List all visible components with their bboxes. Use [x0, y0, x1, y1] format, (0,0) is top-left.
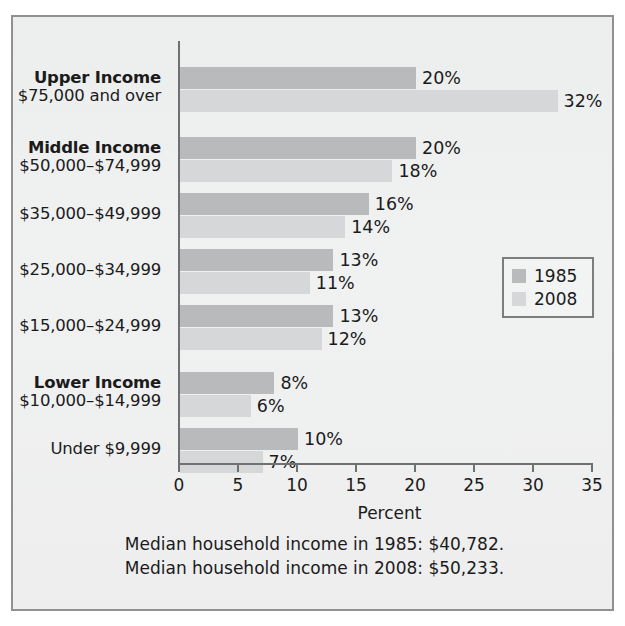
- x-tick-label-20: 20: [404, 475, 426, 495]
- bar-1985-1: [180, 137, 416, 159]
- bar-2008-5: [180, 395, 251, 417]
- bar-value-1985-6: 10%: [304, 428, 343, 450]
- bar-value-1985-4: 13%: [339, 305, 378, 327]
- category-range-1: $50,000–$74,999: [19, 157, 161, 175]
- x-tick-label-15: 15: [345, 475, 367, 495]
- category-group-1: Middle Income: [19, 139, 161, 157]
- bar-2008-3: [180, 272, 310, 294]
- x-tick-25: [473, 463, 475, 472]
- bar-value-2008-2: 14%: [351, 216, 390, 238]
- footnote-block: Median household income in 1985: $40,782…: [13, 532, 616, 580]
- x-tick-20: [414, 463, 416, 472]
- category-range-2: $35,000–$49,999: [19, 205, 161, 223]
- x-axis-title-text: Percent: [208, 503, 422, 523]
- x-tick-15: [355, 463, 357, 472]
- x-tick-5: [237, 463, 239, 472]
- bar-value-1985-0: 20%: [422, 67, 461, 89]
- x-axis-title: Percent: [13, 503, 616, 523]
- footnote-2008: Median household income in 2008: $50,233…: [13, 556, 616, 580]
- legend-label-1985: 1985: [534, 266, 577, 286]
- x-tick-10: [296, 463, 298, 472]
- bar-1985-3: [180, 249, 333, 271]
- x-tick-0: [178, 463, 180, 472]
- bar-2008-2: [180, 216, 345, 238]
- category-group-5: Lower Income: [19, 374, 161, 392]
- x-tick-label-5: 5: [233, 475, 244, 495]
- category-range-0: $75,000 and over: [18, 87, 161, 105]
- legend-swatch-1985-icon: [512, 269, 526, 283]
- bar-value-2008-0: 32%: [564, 90, 603, 112]
- x-tick-label-30: 30: [522, 475, 544, 495]
- bar-value-1985-2: 16%: [375, 193, 414, 215]
- bar-2008-1: [180, 160, 392, 182]
- category-range-4: $15,000–$24,999: [19, 317, 161, 335]
- category-label-2: $35,000–$49,999: [19, 205, 161, 223]
- y-axis-line: [178, 41, 180, 463]
- legend: 1985 2008: [502, 257, 594, 318]
- bar-1985-4: [180, 305, 333, 327]
- category-group-0: Upper Income: [18, 69, 161, 87]
- category-label-3: $25,000–$34,999: [19, 261, 161, 279]
- category-label-5: Lower Income$10,000–$14,999: [19, 374, 161, 411]
- category-label-6: Under $9,999: [50, 440, 161, 458]
- footnote-1985: Median household income in 1985: $40,782…: [13, 532, 616, 556]
- legend-label-2008: 2008: [534, 289, 577, 309]
- bar-value-2008-6: 7%: [269, 451, 297, 473]
- legend-item-1985: 1985: [512, 264, 585, 287]
- bar-1985-2: [180, 193, 369, 215]
- x-tick-30: [532, 463, 534, 472]
- x-tick-label-25: 25: [463, 475, 485, 495]
- bar-2008-6: [180, 451, 263, 473]
- category-label-4: $15,000–$24,999: [19, 317, 161, 335]
- legend-item-2008: 2008: [512, 287, 585, 310]
- category-range-3: $25,000–$34,999: [19, 261, 161, 279]
- x-tick-35: [591, 463, 593, 472]
- x-tick-label-35: 35: [581, 475, 603, 495]
- chart-frame: Upper Income$75,000 and overMiddle Incom…: [11, 15, 614, 611]
- category-label-1: Middle Income$50,000–$74,999: [19, 139, 161, 176]
- bar-value-1985-3: 13%: [339, 249, 378, 271]
- bar-value-1985-5: 8%: [280, 372, 308, 394]
- bar-value-2008-1: 18%: [398, 160, 437, 182]
- bar-1985-6: [180, 428, 298, 450]
- bar-1985-0: [180, 67, 416, 89]
- bar-value-2008-4: 12%: [328, 328, 367, 350]
- bar-1985-5: [180, 372, 274, 394]
- bar-2008-4: [180, 328, 322, 350]
- x-tick-label-0: 0: [174, 475, 185, 495]
- category-label-0: Upper Income$75,000 and over: [18, 69, 161, 106]
- category-range-5: $10,000–$14,999: [19, 392, 161, 410]
- bar-value-1985-1: 20%: [422, 137, 461, 159]
- legend-swatch-2008-icon: [512, 292, 526, 306]
- category-range-6: Under $9,999: [50, 440, 161, 458]
- x-axis-line: [178, 463, 592, 465]
- bar-value-2008-3: 11%: [316, 272, 355, 294]
- chart-figure: Upper Income$75,000 and overMiddle Incom…: [0, 0, 625, 626]
- x-tick-label-10: 10: [286, 475, 308, 495]
- bar-value-2008-5: 6%: [257, 395, 285, 417]
- bar-2008-0: [180, 90, 558, 112]
